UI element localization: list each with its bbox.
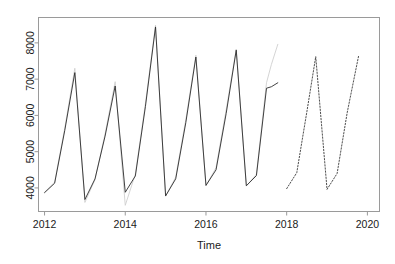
x-tick-label-2020: 2020 (356, 218, 380, 230)
x-axis-tick-labels: 20122014201620182020 (33, 218, 379, 230)
y-tick-label-7000: 7000 (25, 67, 37, 91)
plot-frame (39, 18, 380, 212)
series-forecast-line (287, 56, 359, 189)
time-series-chart: 40005000600070008000 2012201420162018202… (0, 0, 395, 264)
y-axis-tick-labels: 40005000600070008000 (25, 31, 37, 200)
series-observed-line (45, 27, 278, 200)
x-axis-title: Time (197, 239, 221, 251)
x-tick-label-2018: 2018 (275, 218, 299, 230)
x-axis-ticks (45, 212, 368, 216)
x-tick-label-2014: 2014 (114, 218, 138, 230)
y-tick-label-6000: 6000 (25, 104, 37, 128)
x-tick-label-2016: 2016 (194, 218, 218, 230)
y-tick-label-8000: 8000 (25, 31, 37, 55)
x-tick-label-2012: 2012 (33, 218, 57, 230)
y-tick-label-4000: 4000 (25, 176, 37, 200)
r-plot-canvas: 40005000600070008000 2012201420162018202… (0, 0, 395, 264)
y-tick-label-5000: 5000 (25, 140, 37, 164)
